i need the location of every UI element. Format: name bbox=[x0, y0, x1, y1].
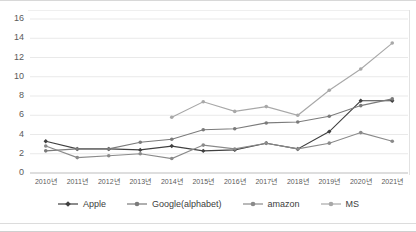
data-point-marker bbox=[359, 104, 363, 108]
chart-card: 0246810121416 2010년2011년2012년2013년2014년2… bbox=[0, 0, 416, 232]
legend-marker-icon bbox=[57, 199, 79, 209]
y-axis-tick-label: 14 bbox=[4, 32, 24, 42]
data-point-marker bbox=[44, 149, 48, 153]
data-point-marker bbox=[264, 121, 268, 125]
legend-marker-icon bbox=[242, 199, 264, 209]
data-point-marker bbox=[296, 113, 300, 117]
data-point-marker bbox=[327, 114, 331, 118]
data-point-marker bbox=[75, 147, 79, 151]
data-point-marker bbox=[201, 128, 205, 132]
y-axis-tick-label: 8 bbox=[4, 90, 24, 100]
y-axis-tick-label: 4 bbox=[4, 129, 24, 139]
data-point-marker bbox=[233, 147, 237, 151]
data-point-marker bbox=[359, 67, 363, 71]
data-point-marker bbox=[233, 110, 237, 114]
legend-item-google-alphabet[interactable]: Google(alphabet) bbox=[126, 199, 222, 209]
data-point-marker bbox=[170, 115, 174, 119]
y-axis-tick-label: 10 bbox=[4, 71, 24, 81]
data-point-marker bbox=[264, 141, 268, 145]
y-axis-tick-label: 16 bbox=[4, 13, 24, 23]
data-point-marker bbox=[170, 157, 174, 161]
y-axis-tick-label: 6 bbox=[4, 109, 24, 119]
data-point-marker bbox=[170, 144, 174, 148]
y-axis-tick-label: 12 bbox=[4, 52, 24, 62]
data-point-marker bbox=[296, 147, 300, 151]
data-point-marker bbox=[107, 154, 111, 158]
legend-marker-icon bbox=[126, 199, 148, 209]
legend-label: Google(alphabet) bbox=[152, 199, 222, 209]
data-point-marker bbox=[44, 139, 48, 143]
data-point-marker bbox=[264, 105, 268, 109]
data-point-marker bbox=[138, 148, 142, 152]
data-point-marker bbox=[44, 144, 48, 148]
data-point-marker bbox=[75, 156, 79, 160]
legend-item-amazon[interactable]: amazon bbox=[242, 199, 300, 209]
series-line bbox=[46, 133, 393, 159]
legend-item-apple[interactable]: Apple bbox=[57, 199, 106, 209]
data-point-marker bbox=[296, 120, 300, 124]
legend-label: MS bbox=[346, 199, 360, 209]
chart-legend: AppleGoogle(alphabet)amazonMS bbox=[0, 199, 416, 209]
data-point-marker bbox=[170, 138, 174, 142]
x-axis-tick-label: 2021년 bbox=[372, 176, 412, 186]
line-chart-plot bbox=[0, 0, 416, 232]
data-point-marker bbox=[107, 147, 111, 151]
legend-label: amazon bbox=[268, 199, 300, 209]
data-point-marker bbox=[390, 97, 394, 101]
data-point-marker bbox=[359, 131, 363, 135]
y-axis-tick-label: 2 bbox=[4, 148, 24, 158]
data-point-marker bbox=[201, 149, 205, 153]
y-axis-tick-label: 0 bbox=[4, 167, 24, 177]
legend-item-ms[interactable]: MS bbox=[320, 199, 360, 209]
data-point-marker bbox=[390, 139, 394, 143]
legend-label: Apple bbox=[83, 199, 106, 209]
data-point-marker bbox=[138, 140, 142, 144]
series-group bbox=[44, 41, 395, 160]
data-point-marker bbox=[138, 152, 142, 156]
data-point-marker bbox=[233, 127, 237, 131]
data-point-marker bbox=[201, 100, 205, 104]
legend-marker-icon bbox=[320, 199, 342, 209]
series-line bbox=[46, 101, 393, 151]
data-point-marker bbox=[327, 88, 331, 92]
data-point-marker bbox=[201, 143, 205, 147]
data-point-marker bbox=[327, 141, 331, 145]
data-point-marker bbox=[390, 41, 394, 45]
